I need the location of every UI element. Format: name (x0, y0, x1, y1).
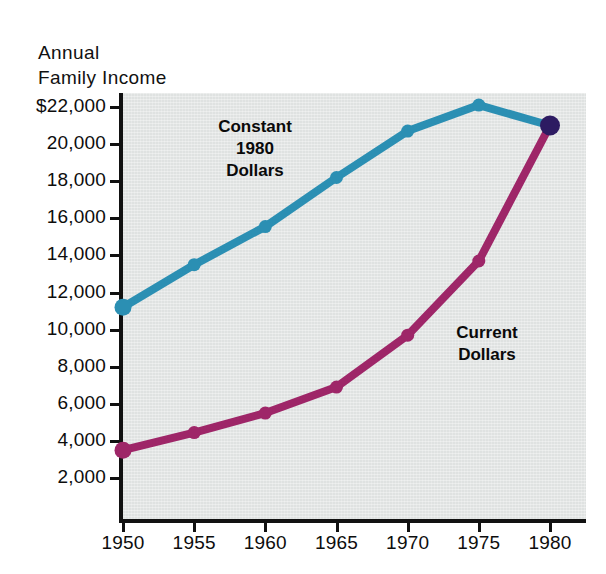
y-axis-tick (110, 106, 122, 109)
constant-dollars-label-line-1: Constant (218, 117, 292, 136)
y-axis-tick (110, 143, 122, 146)
x-axis-tick-label: 1980 (528, 532, 571, 554)
y-axis-tick-label: 4,000 (0, 429, 106, 451)
x-axis-tick (407, 519, 410, 532)
axis-title-line-1: Annual (38, 42, 100, 63)
x-axis-tick (336, 519, 339, 532)
y-axis-tick-label: 18,000 (0, 169, 106, 191)
chart-axis-title: Annual Family Income (38, 40, 167, 90)
y-axis-tick-label: $22,000 (0, 95, 106, 117)
y-axis-tick-label: 20,000 (0, 132, 106, 154)
y-axis-tick (110, 329, 122, 332)
x-axis-tick-label: 1965 (315, 532, 358, 554)
current-dollars-label-line-1: Current (456, 323, 517, 342)
series-label-constant-1980-dollars: Constant1980Dollars (185, 116, 325, 182)
x-axis-tick-label: 1950 (101, 532, 144, 554)
y-axis-tick-label: 10,000 (0, 318, 106, 340)
series-label-current-dollars: CurrentDollars (432, 322, 542, 366)
constant-dollars-label-line-2: 1980 (236, 139, 274, 158)
x-axis-line (119, 519, 586, 523)
y-axis-tick (110, 217, 122, 220)
y-axis-line (119, 93, 123, 523)
y-axis-tick (110, 180, 122, 183)
x-axis-tick (122, 519, 125, 532)
y-axis-tick (110, 292, 122, 295)
x-axis-tick-label: 1975 (457, 532, 500, 554)
x-axis-tick-label: 1970 (386, 532, 429, 554)
y-axis-tick (110, 440, 122, 443)
y-axis-tick-label: 6,000 (0, 392, 106, 414)
axis-title-line-2: Family Income (38, 67, 167, 88)
y-axis-tick (110, 254, 122, 257)
y-axis-tick (110, 403, 122, 406)
y-axis-tick-label: 12,000 (0, 281, 106, 303)
y-axis-tick (110, 366, 122, 369)
y-axis-tick-label: 8,000 (0, 355, 106, 377)
x-axis-tick (478, 519, 481, 532)
x-axis-tick (264, 519, 267, 532)
y-axis-tick-label: 14,000 (0, 243, 106, 265)
x-axis-tick (549, 519, 552, 532)
x-axis-tick-label: 1955 (173, 532, 216, 554)
x-axis-tick-label: 1960 (244, 532, 287, 554)
current-dollars-label-line-2: Dollars (458, 345, 516, 364)
y-axis-tick-label: 2,000 (0, 466, 106, 488)
constant-dollars-label-line-3: Dollars (226, 161, 284, 180)
chart-root: Annual Family Income $22,00020,00018,000… (0, 0, 606, 574)
y-axis-tick-label: 16,000 (0, 206, 106, 228)
x-axis-tick (193, 519, 196, 532)
y-axis-tick (110, 477, 122, 480)
